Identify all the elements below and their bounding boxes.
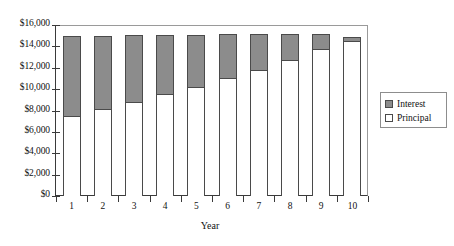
x-axis-tick-mark [306, 196, 307, 202]
x-axis-tick-mark [118, 196, 119, 202]
x-axis-tick-mark [56, 196, 57, 202]
y-axis-tick-label: $4,000 [24, 146, 50, 156]
legend-label-principal: Principal [397, 113, 431, 123]
bar-column[interactable] [94, 25, 112, 196]
y-axis-tick-label: $10,000 [20, 82, 50, 92]
y-axis-tick-label: $2,000 [24, 168, 50, 178]
x-axis-tick-mark [181, 196, 182, 202]
bar-segment-interest[interactable] [187, 35, 205, 87]
x-axis-tick-label: 8 [278, 201, 302, 211]
bar-column[interactable] [187, 25, 205, 196]
bar-segment-principal[interactable] [343, 41, 361, 196]
bar-segment-interest[interactable] [156, 35, 174, 95]
bar-segment-interest[interactable] [94, 36, 112, 110]
x-axis-tick-label: 2 [91, 201, 115, 211]
bar-segment-interest[interactable] [219, 34, 237, 78]
bar-segment-principal[interactable] [312, 49, 330, 196]
legend-swatch-interest [385, 100, 393, 108]
bar-segment-interest[interactable] [63, 36, 81, 116]
bar-column[interactable] [250, 25, 268, 196]
chart-legend: Interest Principal [380, 92, 447, 128]
bar-segment-interest[interactable] [125, 35, 143, 102]
x-axis-tick-label: 5 [184, 201, 208, 211]
bar-segment-principal[interactable] [250, 70, 268, 196]
bar-column[interactable] [312, 25, 330, 196]
bar-column[interactable] [125, 25, 143, 196]
x-axis-tick-mark [274, 196, 275, 202]
bar-segment-interest[interactable] [281, 34, 299, 61]
y-axis-tick-label: $0 [41, 189, 50, 199]
x-axis-tick-label: 7 [247, 201, 271, 211]
y-axis-tick-label: $8,000 [24, 104, 50, 114]
x-axis-tick-mark [337, 196, 338, 202]
bars-layer [56, 25, 368, 196]
x-axis-tick-label: 6 [216, 201, 240, 211]
bar-segment-principal[interactable] [94, 109, 112, 196]
legend-item-interest[interactable]: Interest [385, 97, 446, 111]
bar-segment-principal[interactable] [63, 116, 81, 196]
x-axis-tick-mark [368, 196, 369, 202]
bar-segment-principal[interactable] [156, 94, 174, 196]
bar-segment-interest[interactable] [250, 34, 268, 70]
x-axis-tick-label: 1 [60, 201, 84, 211]
x-axis-tick-label: 9 [309, 201, 333, 211]
x-axis-tick-label: 3 [122, 201, 146, 211]
legend-item-principal[interactable]: Principal [385, 111, 446, 125]
bar-segment-principal[interactable] [281, 60, 299, 196]
bar-column[interactable] [343, 25, 361, 196]
bar-column[interactable] [63, 25, 81, 196]
x-axis-tick-mark [150, 196, 151, 202]
y-axis-tick-label: $16,000 [20, 18, 50, 28]
x-axis-tick-mark [87, 196, 88, 202]
bar-segment-principal[interactable] [125, 102, 143, 196]
legend-label-interest: Interest [397, 99, 426, 109]
bar-segment-principal[interactable] [219, 78, 237, 196]
bar-segment-interest[interactable] [343, 37, 361, 41]
bar-segment-interest[interactable] [312, 34, 330, 49]
legend-swatch-principal [385, 114, 393, 122]
x-axis-tick-label: 4 [153, 201, 177, 211]
bar-column[interactable] [156, 25, 174, 196]
bar-column[interactable] [219, 25, 237, 196]
x-axis-title: Year [0, 220, 420, 231]
y-axis-tick-label: $14,000 [20, 39, 50, 49]
y-axis-tick-label: $12,000 [20, 61, 50, 71]
x-axis-tick-mark [243, 196, 244, 202]
x-axis-tick-label: 10 [340, 201, 364, 211]
x-axis-tick-mark [212, 196, 213, 202]
y-axis-tick-label: $6,000 [24, 125, 50, 135]
stacked-bar-chart: $0$2,000$4,000$6,000$8,000$10,000$12,000… [0, 0, 454, 246]
bar-segment-principal[interactable] [187, 87, 205, 196]
bar-column[interactable] [281, 25, 299, 196]
